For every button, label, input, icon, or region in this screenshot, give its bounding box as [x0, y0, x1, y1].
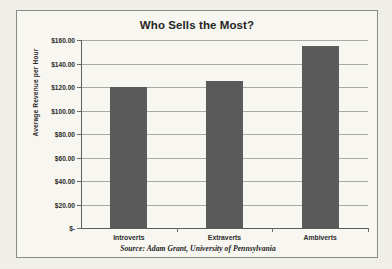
- y-axis-line: [81, 40, 82, 229]
- y-tick-label: $80.00: [55, 131, 75, 138]
- y-axis-title: Average Revenue per Hour: [32, 23, 39, 163]
- bar-extraverts[interactable]: [206, 81, 243, 228]
- chart-frame: Who Sells the Most? Average Revenue per …: [16, 10, 378, 258]
- bar-introverts[interactable]: [110, 87, 147, 228]
- y-tick-mark: [77, 158, 81, 159]
- y-tick-label: $100.00: [51, 107, 75, 114]
- x-category-label: Introverts: [113, 234, 144, 241]
- gridline: [81, 40, 368, 41]
- y-tick-mark: [77, 111, 81, 112]
- x-tick-mark: [368, 228, 369, 232]
- y-tick-mark: [77, 205, 81, 206]
- plot-wrapper: Average Revenue per Hour Source: Adam Gr…: [17, 11, 379, 259]
- y-tick-mark: [77, 87, 81, 88]
- page-background: Who Sells the Most? Average Revenue per …: [0, 0, 392, 269]
- bar-ambiverts[interactable]: [302, 46, 339, 228]
- y-tick-label: $120.00: [51, 84, 75, 91]
- y-tick-label: $160.00: [51, 37, 75, 44]
- y-tick-label: $60.00: [55, 154, 75, 161]
- y-tick-label: $40.00: [55, 178, 75, 185]
- y-tick-mark: [77, 64, 81, 65]
- plot-area: [81, 40, 368, 228]
- source-note: Source: Adam Grant, University of Pennsy…: [17, 244, 379, 253]
- x-category-label: Ambiverts: [304, 234, 337, 241]
- y-tick-label: $20.00: [55, 201, 75, 208]
- y-tick-mark: [77, 40, 81, 41]
- x-category-label: Extraverts: [208, 234, 241, 241]
- y-tick-mark: [77, 228, 81, 229]
- x-axis-line: [81, 228, 369, 229]
- x-tick-mark: [272, 228, 273, 232]
- y-tick-mark: [77, 134, 81, 135]
- x-tick-mark: [177, 228, 178, 232]
- y-tick-mark: [77, 181, 81, 182]
- y-tick-label: $-: [69, 225, 75, 232]
- y-tick-label: $140.00: [51, 60, 75, 67]
